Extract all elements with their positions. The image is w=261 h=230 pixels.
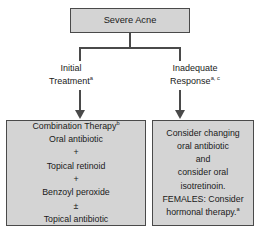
node-consider-changing-line-4: consider oral [156,166,250,179]
down-arrow-icon-left [75,110,85,119]
down-arrow-icon-right [175,110,185,119]
node-combination-therapy-line-5: Benzoyl peroxide [10,186,142,199]
node-consider-changing[interactable]: Consider changing oral antibiotic and co… [152,120,254,226]
flowchart-canvas: Severe Acne Initial Treatmenta Inadequat… [0,0,261,230]
node-consider-changing-line-5: isotretinoin. [156,180,250,193]
node-combination-therapy-line-6: ± [10,200,142,213]
footnote-marker-a-hormonal: a [237,206,240,212]
node-consider-changing-line-1: Consider changing [156,127,250,140]
branch-label-initial-treatment-line2: Treatmenta [28,75,114,88]
arrow-shaft-left [79,90,81,112]
arrow-shaft-right [179,90,181,112]
node-severe-acne-label: Severe Acne [71,16,189,25]
node-combination-therapy[interactable]: Combination Therapyb Oral antibiotic + T… [6,120,146,226]
connector-branch-left [79,47,81,61]
node-consider-changing-line-6: FEMALES: Consider [156,193,250,206]
branch-label-initial-treatment-line1: Initial [28,62,114,75]
connector-branch-right [179,47,181,61]
node-combination-therapy-line-4: + [10,173,142,186]
branch-label-inadequate-response-line2: Responsea, c [148,75,242,88]
node-consider-changing-line-2: oral antibiotic [156,140,250,153]
node-combination-therapy-line-7: Topical antibiotic [10,213,142,226]
footnote-marker-b: b [116,120,119,126]
branch-label-inadequate-response-line1: Inadequate [148,62,242,75]
node-combination-therapy-heading: Combination Therapyb [10,120,142,133]
connector-horizontal-bus [79,47,181,49]
footnote-marker-a-c: a, c [211,75,220,81]
footnote-marker-a: a [90,75,93,81]
branch-label-initial-treatment: Initial Treatmenta [28,62,114,88]
branch-label-inadequate-response: Inadequate Responsea, c [148,62,242,88]
node-severe-acne[interactable]: Severe Acne [70,8,190,33]
node-consider-changing-line-7: hormonal therapy.a [156,206,250,219]
node-combination-therapy-line-1: Oral antibiotic [10,133,142,146]
node-combination-therapy-line-2: + [10,146,142,159]
node-combination-therapy-line-3: Topical retinoid [10,160,142,173]
node-consider-changing-line-3: and [156,153,250,166]
